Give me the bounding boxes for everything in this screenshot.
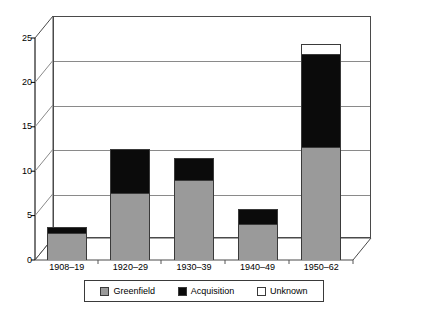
y-tick-label: 10 [22,167,32,176]
bar-segment-greenfield[interactable] [174,180,214,260]
legend-item-unknown[interactable]: Unknown [257,287,308,296]
legend-swatch-icon [257,287,266,296]
bar-segment-greenfield[interactable] [238,224,278,260]
bar-1930-39[interactable] [174,158,214,260]
bar-1908-19[interactable] [47,227,87,260]
bar-segment-acquisition[interactable] [110,149,150,193]
bar-segment-greenfield[interactable] [47,233,87,260]
legend-swatch-icon [100,287,109,296]
bar-segment-greenfield[interactable] [301,147,341,260]
legend-item-greenfield[interactable]: Greenfield [100,287,155,296]
bar-segment-acquisition[interactable] [301,54,341,147]
x-axis-label: 1920–29 [99,262,163,272]
legend-label: Acquisition [191,287,235,296]
bar-segment-unknown[interactable] [301,44,341,54]
legend-label: Greenfield [113,287,155,296]
stacked-bar-chart: 25 20 15 10 5 0 1908–191920–291930–39194… [0,0,423,314]
bar-segment-greenfield[interactable] [110,193,150,260]
y-axis: 25 20 15 10 5 0 [8,0,32,314]
chart-legend: GreenfieldAcquisitionUnknown [84,280,324,302]
bar-1950-62[interactable] [301,44,341,260]
legend-swatch-icon [178,287,187,296]
bar-1920-29[interactable] [110,149,150,260]
y-tick-label: 25 [22,34,32,43]
y-tick-label: 15 [22,122,32,131]
bar-segment-acquisition[interactable] [174,158,214,180]
bar-segment-acquisition[interactable] [238,209,278,225]
x-axis-label: 1930–39 [162,262,226,272]
legend-label: Unknown [270,287,308,296]
y-tick-label: 0 [27,256,32,265]
legend-item-acquisition[interactable]: Acquisition [178,287,235,296]
y-tick-label: 20 [22,78,32,87]
y-tick-label: 5 [27,211,32,220]
bar-1940-49[interactable] [238,209,278,260]
x-axis-label: 1940–49 [226,262,290,272]
x-axis-label: 1908–19 [35,262,99,272]
bars-layer [35,38,353,260]
x-axis-label: 1950–62 [289,262,353,272]
x-axis-labels: 1908–191920–291930–391940–491950–62 [35,262,353,276]
